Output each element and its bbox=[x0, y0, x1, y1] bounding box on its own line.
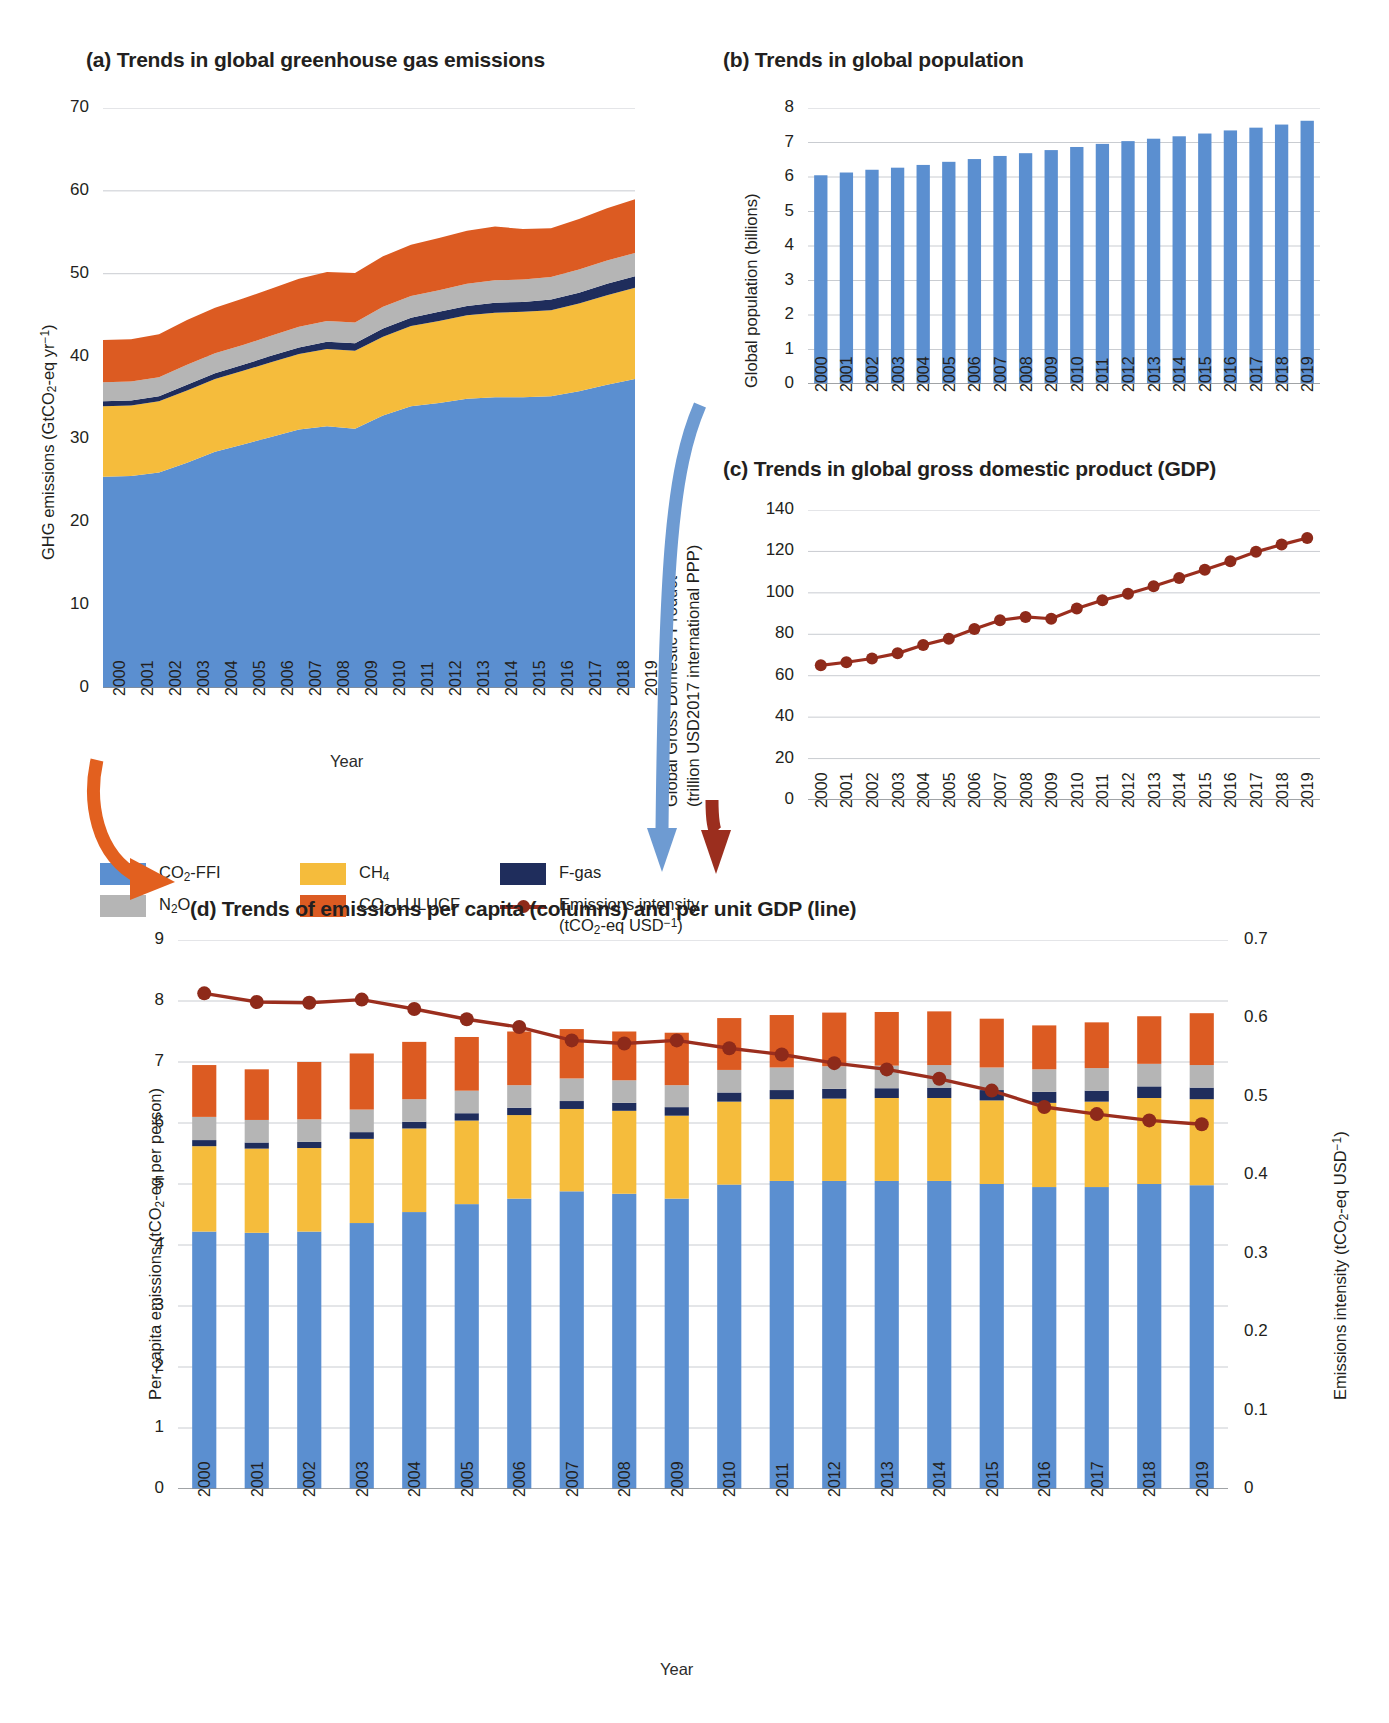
gdp-point-2017 bbox=[1250, 546, 1262, 558]
x-tick-label-2018: 2018 bbox=[615, 660, 633, 696]
y-tick-label: 6 bbox=[155, 1112, 164, 1132]
y-tick-label-right: 0.6 bbox=[1244, 1007, 1268, 1027]
bar-segment-ch4-2006 bbox=[507, 1115, 531, 1199]
bar-2014 bbox=[1173, 136, 1186, 384]
bar-segment-f-gas-2000 bbox=[192, 1140, 216, 1146]
bar-segment-ch4-2007 bbox=[560, 1109, 584, 1191]
bar-segment-f-gas-2014 bbox=[927, 1088, 951, 1098]
x-tick-label-2016: 2016 bbox=[1036, 1461, 1054, 1497]
intensity-point-2007 bbox=[565, 1033, 579, 1047]
bar-2007 bbox=[993, 156, 1006, 384]
bar-segment-f-gas-2009 bbox=[665, 1107, 689, 1116]
x-tick-label-2017: 2017 bbox=[1248, 356, 1266, 392]
bar-segment-n2o-2003 bbox=[350, 1110, 374, 1133]
x-tick-label-2017: 2017 bbox=[587, 660, 605, 696]
bar-segment-n2o-2002 bbox=[297, 1119, 321, 1142]
bar-segment-f-gas-2002 bbox=[297, 1142, 321, 1148]
y-tick-label: 80 bbox=[775, 623, 794, 643]
panel-a-ghg-emissions: (a) Trends in global greenhouse gas emis… bbox=[0, 0, 700, 900]
x-tick-label-2013: 2013 bbox=[1146, 356, 1164, 392]
x-tick-label-2017: 2017 bbox=[1248, 772, 1266, 808]
bar-segment-ch4-2018 bbox=[1137, 1098, 1161, 1184]
x-tick-label-2010: 2010 bbox=[391, 660, 409, 696]
x-tick-label-2012: 2012 bbox=[1120, 772, 1138, 808]
x-tick-label-2014: 2014 bbox=[931, 1461, 949, 1497]
x-tick-label-2018: 2018 bbox=[1274, 356, 1292, 392]
bar-2010 bbox=[1070, 147, 1083, 384]
panel-d-combo-chart bbox=[178, 940, 1228, 1489]
intensity-point-2002 bbox=[302, 996, 316, 1010]
bar-segment-ch4-2002 bbox=[297, 1148, 321, 1232]
x-tick-label-2011: 2011 bbox=[1094, 774, 1112, 808]
intensity-point-2006 bbox=[512, 1020, 526, 1034]
intensity-point-2001 bbox=[250, 995, 264, 1009]
bar-2016 bbox=[1224, 130, 1237, 384]
x-tick-label-2016: 2016 bbox=[1222, 772, 1240, 808]
bar-2017 bbox=[1249, 128, 1262, 384]
x-tick-label-2004: 2004 bbox=[223, 660, 241, 696]
bar-segment-co2-ffi-2010 bbox=[717, 1185, 741, 1489]
gdp-point-2005 bbox=[943, 633, 955, 645]
bar-segment-ch4-2010 bbox=[717, 1102, 741, 1185]
bar-2001 bbox=[840, 173, 853, 384]
x-tick-label-2005: 2005 bbox=[941, 356, 959, 392]
x-tick-label-2005: 2005 bbox=[941, 772, 959, 808]
bar-segment-co2-ffi-2007 bbox=[560, 1191, 584, 1489]
x-tick-label-2013: 2013 bbox=[879, 1461, 897, 1497]
bar-2002 bbox=[865, 170, 878, 384]
bar-segment-co2-ffi-2013 bbox=[875, 1181, 899, 1489]
panel-a-plot-area bbox=[103, 108, 635, 688]
x-tick-label-2009: 2009 bbox=[1043, 772, 1061, 808]
bar-segment-co2-ffi-2006 bbox=[507, 1199, 531, 1489]
y-tick-label: 6 bbox=[785, 166, 794, 186]
y-tick-label: 10 bbox=[70, 594, 89, 614]
x-tick-label-2019: 2019 bbox=[1194, 1461, 1212, 1497]
y-tick-label: 30 bbox=[70, 428, 89, 448]
bar-2005 bbox=[942, 162, 955, 384]
intensity-point-2009 bbox=[670, 1033, 684, 1047]
bar-segment-co2-lulucf-2006 bbox=[507, 1032, 531, 1086]
bar-segment-co2-ffi-2012 bbox=[822, 1181, 846, 1489]
bar-segment-n2o-2008 bbox=[612, 1080, 636, 1103]
bar-2003 bbox=[891, 168, 904, 384]
bar-segment-n2o-2009 bbox=[665, 1085, 689, 1107]
bar-segment-co2-ffi-2000 bbox=[192, 1232, 216, 1489]
gdp-point-2000 bbox=[815, 659, 827, 671]
intensity-point-2018 bbox=[1142, 1113, 1156, 1127]
bar-segment-co2-ffi-2017 bbox=[1085, 1187, 1109, 1489]
bar-segment-ch4-2016 bbox=[1032, 1103, 1056, 1187]
x-tick-label-2019: 2019 bbox=[1299, 772, 1317, 808]
bar-segment-co2-ffi-2018 bbox=[1137, 1184, 1161, 1489]
bar-2011 bbox=[1096, 144, 1109, 384]
bar-segment-ch4-2003 bbox=[350, 1139, 374, 1223]
panel-a-y-axis-label: GHG emissions (GtCO2-eq yr−1) bbox=[38, 324, 59, 560]
panel-d-title: (d) Trends of emissions per capita (colu… bbox=[190, 897, 856, 921]
panel-c-line-chart bbox=[808, 510, 1320, 800]
x-tick-label-2000: 2000 bbox=[111, 660, 129, 696]
x-tick-label-2006: 2006 bbox=[279, 660, 297, 696]
gdp-point-2019 bbox=[1301, 532, 1313, 544]
bar-segment-co2-lulucf-2004 bbox=[402, 1042, 426, 1099]
panel-c-y-axis-label-line2: (trillion USD2017 international PPP) bbox=[684, 545, 703, 807]
y-tick-label: 7 bbox=[785, 132, 794, 152]
panel-c-gdp: (c) Trends in global gross domestic prod… bbox=[640, 455, 1389, 865]
bar-segment-ch4-2009 bbox=[665, 1116, 689, 1199]
x-tick-label-2008: 2008 bbox=[335, 660, 353, 696]
bar-segment-ch4-2015 bbox=[980, 1100, 1004, 1184]
bar-segment-co2-ffi-2016 bbox=[1032, 1187, 1056, 1489]
y-tick-label: 100 bbox=[766, 582, 794, 602]
y-tick-label: 1 bbox=[155, 1417, 164, 1437]
bar-segment-co2-ffi-2002 bbox=[297, 1232, 321, 1489]
panel-d-per-capita: (d) Trends of emissions per capita (colu… bbox=[0, 880, 1389, 1723]
x-tick-label-2013: 2013 bbox=[1146, 772, 1164, 808]
bar-segment-n2o-2005 bbox=[455, 1091, 479, 1114]
bar-segment-f-gas-2001 bbox=[245, 1143, 269, 1149]
y-tick-label: 5 bbox=[785, 201, 794, 221]
x-tick-label-2009: 2009 bbox=[1043, 356, 1061, 392]
x-tick-label-2015: 2015 bbox=[1197, 356, 1215, 392]
x-tick-label-2014: 2014 bbox=[503, 660, 521, 696]
x-tick-label-2003: 2003 bbox=[354, 1461, 372, 1497]
bar-segment-co2-lulucf-2005 bbox=[455, 1037, 479, 1091]
x-tick-label-2001: 2001 bbox=[838, 772, 856, 808]
bar-2006 bbox=[968, 159, 981, 384]
